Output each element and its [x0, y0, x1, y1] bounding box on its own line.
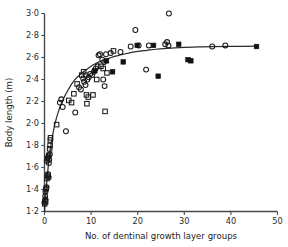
- data-point-open-square: [72, 92, 77, 97]
- data-point-open-square: [85, 101, 90, 106]
- x-axis-title: No. of dentinal growth layer groups: [85, 231, 238, 241]
- data-point-filled-square: [104, 59, 109, 64]
- x-tick-label: 50: [272, 216, 282, 226]
- data-point-filled-square: [151, 43, 156, 48]
- x-axis-tick-labels: 01020304050: [42, 216, 283, 226]
- data-point-open-square: [103, 109, 108, 114]
- data-point-filled-square: [135, 43, 140, 48]
- y-tick-label: 1·4: [26, 184, 39, 194]
- x-tick-label: 10: [86, 216, 96, 226]
- data-point-open-circle: [166, 11, 171, 16]
- data-point-filled-square: [156, 74, 161, 79]
- data-point-open-circle: [223, 43, 228, 48]
- data-point-filled-square: [176, 42, 181, 47]
- y-tick-label: 2·2: [26, 96, 39, 106]
- data-point-open-circle: [146, 43, 151, 48]
- data-point-open-circle: [73, 110, 78, 115]
- data-point-filled-square: [93, 68, 98, 73]
- y-tick-label: 2·0: [26, 118, 39, 128]
- y-tick-label: 1·2: [26, 206, 39, 216]
- data-point-open-square: [91, 93, 96, 98]
- data-point-open-circle: [63, 129, 68, 134]
- x-tick-label: 0: [42, 216, 47, 226]
- x-tick-label: 40: [226, 216, 236, 226]
- data-point-open-circle: [118, 50, 123, 55]
- y-tick-label: 1·8: [26, 140, 39, 150]
- x-tick-label: 30: [179, 216, 189, 226]
- data-point-filled-square: [110, 70, 115, 75]
- y-axis-tick-labels: 1·21·41·61·82·02·22·42·62·83·0: [26, 8, 39, 216]
- open-square-points: [42, 49, 115, 206]
- y-axis-title: Body length (m): [4, 78, 14, 148]
- data-point-open-circle: [98, 52, 103, 57]
- data-point-open-circle: [102, 84, 107, 89]
- data-point-open-circle: [133, 28, 138, 33]
- data-point-open-circle: [144, 67, 149, 72]
- data-point-filled-square: [254, 44, 259, 49]
- open-circle-points: [42, 11, 228, 205]
- plot-canvas: 1·21·41·61·82·02·22·42·62·83·0 010203040…: [0, 0, 288, 247]
- data-point-filled-square: [189, 59, 194, 64]
- scatter-chart: 1·21·41·61·82·02·22·42·62·83·0 010203040…: [0, 0, 288, 247]
- fitted-growth-curve: [45, 46, 257, 211]
- data-point-open-square: [94, 77, 99, 82]
- y-tick-label: 2·8: [26, 30, 39, 40]
- data-point-open-square: [105, 71, 110, 76]
- data-point-open-circle: [128, 44, 133, 49]
- y-tick-label: 2·6: [26, 52, 39, 62]
- data-point-open-circle: [101, 77, 106, 82]
- y-tick-label: 2·4: [26, 74, 39, 84]
- y-tick-label: 1·6: [26, 162, 39, 172]
- x-tick-label: 20: [132, 216, 142, 226]
- data-point-open-circle: [60, 105, 65, 110]
- y-tick-label: 3·0: [26, 8, 39, 18]
- data-point-filled-square: [121, 60, 126, 65]
- data-point-open-circle: [104, 52, 109, 57]
